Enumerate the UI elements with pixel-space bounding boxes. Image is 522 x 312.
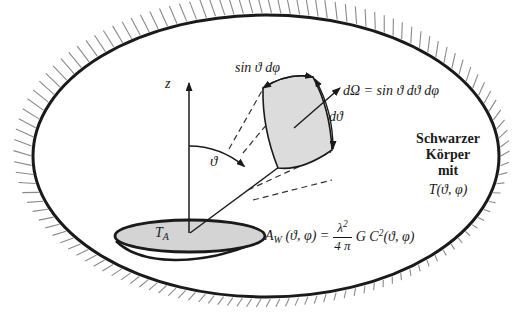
- hatch-tick: [286, 298, 290, 306]
- hatch-tick: [45, 224, 59, 228]
- hatch-tick: [209, 0, 215, 16]
- equation-lead: AW (ϑ, φ) =: [265, 228, 329, 245]
- antenna-temperature-sub: A: [163, 231, 169, 242]
- blackbody-caption-line1: Schwarzer: [398, 131, 498, 147]
- hatch-tick: [501, 162, 509, 166]
- hatch-tick: [237, 298, 242, 306]
- equation-fraction-numerator: λ2: [333, 219, 351, 238]
- hatch-tick: [484, 210, 490, 212]
- hatch-tick: [435, 255, 438, 261]
- hatch-tick: [478, 217, 484, 220]
- hatch-tick: [499, 130, 507, 138]
- equation-lead-base: A: [265, 228, 274, 243]
- hatch-tick: [160, 9, 168, 27]
- hatch-tick: [14, 151, 32, 156]
- hatch-tick: [497, 120, 505, 129]
- hatch-tick: [402, 22, 403, 39]
- hatch-tick: [39, 217, 54, 220]
- hatch-tick: [168, 288, 176, 296]
- hatch-tick: [276, 299, 280, 307]
- hatch-tick: [179, 4, 186, 22]
- hatch-tick: [489, 100, 496, 111]
- equation-lambda-exp: 2: [343, 219, 348, 229]
- hatch-tick: [178, 290, 185, 298]
- hatch-tick: [39, 81, 54, 94]
- hatch-tick: [267, 0, 271, 13]
- blackbody-caption-line3: mit: [398, 163, 498, 179]
- hatch-tick: [190, 2, 197, 20]
- hatch-tick: [484, 91, 490, 103]
- hatch-tick: [199, 294, 206, 302]
- hatch-tick: [33, 90, 48, 102]
- antenna-temperature-base: T: [155, 225, 163, 240]
- hatch-tick: [28, 99, 44, 110]
- hatch-tick: [158, 286, 166, 294]
- hatch-tick: [295, 298, 298, 306]
- hatch-tick: [150, 12, 158, 29]
- figure-stage: z ϑ sin ϑ dφ dΩ = sin ϑ dϑ dφ dϑ Schwarz…: [0, 0, 522, 312]
- hatch-tick: [305, 297, 308, 305]
- equation-lead-rest: (ϑ, φ) =: [282, 228, 329, 243]
- hatch-tick: [452, 53, 456, 68]
- hatch-tick: [479, 82, 485, 95]
- hatch-tick: [459, 60, 463, 75]
- equation-tail: G C2(ϑ, φ): [356, 228, 415, 244]
- hatch-tick: [324, 294, 326, 302]
- hatch-tick: [60, 238, 73, 243]
- hatch-tick: [69, 52, 82, 67]
- hatch-tick: [14, 139, 31, 146]
- hatch-tick: [472, 225, 477, 229]
- hatch-tick: [374, 283, 375, 290]
- hatch-tick: [420, 31, 422, 48]
- hatch-tick: [427, 260, 429, 266]
- hatch-tick: [16, 129, 33, 137]
- hatch-tick: [401, 273, 402, 280]
- blackbody-caption: Schwarzer Körper mit T(ϑ, φ): [398, 131, 498, 198]
- hatch-tick: [140, 15, 149, 32]
- hatch-tick: [493, 110, 500, 120]
- hatch-tick: [258, 0, 263, 13]
- hatch-tick: [113, 26, 123, 43]
- hatch-tick: [86, 40, 97, 56]
- hatch-tick: [227, 298, 233, 306]
- hatch-tick: [149, 283, 157, 290]
- solid-angle-equation-label: dΩ = sin ϑ dϑ dφ: [343, 83, 439, 98]
- hatch-tick: [345, 4, 347, 22]
- hatch-tick: [451, 244, 455, 249]
- hatch-tick: [247, 299, 252, 307]
- hatch-tick: [443, 250, 446, 256]
- hatch-tick: [46, 73, 60, 87]
- hatch-tick: [375, 12, 376, 29]
- hatch-tick: [296, 0, 299, 15]
- hatch-tick: [501, 151, 510, 156]
- blackbody-temperature-label: T(ϑ, φ): [398, 182, 498, 198]
- hatch-tick: [238, 0, 243, 14]
- hatch-tick: [314, 296, 317, 304]
- hatch-tick: [130, 277, 139, 284]
- hatch-tick: [53, 231, 67, 235]
- hatch-tick: [169, 6, 177, 24]
- hatch-tick: [94, 260, 105, 266]
- hatch-tick: [499, 173, 507, 175]
- hatch-tick: [23, 109, 39, 119]
- hatch-tick: [335, 2, 337, 20]
- hatch-tick: [19, 119, 36, 128]
- hatch-tick: [266, 299, 270, 307]
- hatch-tick: [188, 292, 195, 300]
- hatch-tick: [444, 47, 447, 63]
- hatch-tick: [277, 0, 281, 13]
- hatch-tick: [287, 0, 291, 14]
- hatch-tick: [473, 74, 478, 88]
- hatch-tick: [139, 280, 148, 287]
- patch-width-label: sin ϑ dφ: [235, 60, 280, 75]
- hatch-tick: [355, 6, 356, 24]
- patch-height-label: dϑ: [329, 109, 343, 124]
- hatch-tick: [95, 35, 106, 51]
- hatch-tick: [19, 183, 36, 184]
- hatch-tick: [122, 22, 132, 39]
- hatch-tick: [229, 0, 235, 14]
- equation-tail-base: G C: [356, 229, 379, 244]
- hatch-tick: [61, 59, 74, 74]
- equation-tail-rest: (ϑ, φ): [383, 229, 414, 244]
- hatch-tick: [27, 201, 43, 202]
